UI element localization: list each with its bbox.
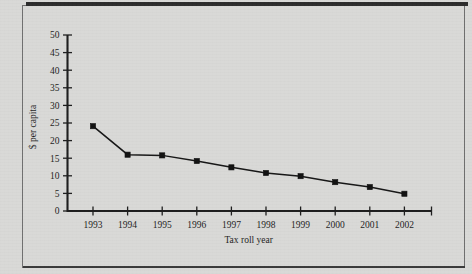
x-tick-label-1999: 1999 <box>291 220 310 230</box>
data-point-1995: 1995: 15.8 <box>160 153 165 158</box>
y-tick-label-15: 15 <box>50 154 60 164</box>
x-tick-label-1993: 1993 <box>84 220 103 230</box>
y-tick-label-40: 40 <box>50 66 60 76</box>
series-line-1 <box>93 126 404 194</box>
y-tick-label-0: 0 <box>55 206 60 216</box>
x-tick-label-1994: 1994 <box>118 220 137 230</box>
y-axis-title: $ per capita <box>28 104 38 149</box>
y-tick-label-5: 5 <box>55 189 60 199</box>
x-axis-title: Tax roll year <box>224 235 273 245</box>
y-tick-label-30: 30 <box>50 101 60 111</box>
x-tick-label-2002: 2002 <box>395 220 414 230</box>
y-tick-label-45: 45 <box>50 48 60 58</box>
y-tick-label-10: 10 <box>50 171 60 181</box>
data-point-1996: 1996: 14.2 <box>194 158 199 163</box>
data-point-2002: 2002: 4.9 <box>402 191 407 196</box>
y-tick-label-20: 20 <box>50 136 60 146</box>
data-point-1999: 1999: 9.9 <box>298 174 303 179</box>
data-point-1994: 1994: 16 <box>125 152 130 157</box>
x-tick-label-2001: 2001 <box>360 220 379 230</box>
data-point-2001: 2001: 6.8 <box>367 184 372 189</box>
x-tick-label-1995: 1995 <box>153 220 172 230</box>
x-tick-label-2000: 2000 <box>326 220 345 230</box>
x-tick-label-1996: 1996 <box>187 220 206 230</box>
line-chart: 05101520253035404550$ per capita19931994… <box>0 0 472 274</box>
y-tick-label-25: 25 <box>50 118 60 128</box>
x-tick-label-1998: 1998 <box>257 220 276 230</box>
data-point-1993: 1993: 24.1 <box>90 124 95 129</box>
chart-svg-root: 05101520253035404550$ per capita19931994… <box>28 30 432 245</box>
data-point-2000: 2000: 8.2 <box>333 180 338 185</box>
y-tick-label-50: 50 <box>50 30 60 40</box>
x-tick-label-1997: 1997 <box>222 220 241 230</box>
figure-container: 05101520253035404550$ per capita19931994… <box>0 0 472 274</box>
data-point-1997: 1997: 12.4 <box>229 165 234 170</box>
y-tick-label-35: 35 <box>50 83 60 93</box>
axis-lines <box>68 35 433 211</box>
data-point-1998: 1998: 10.8 <box>263 170 268 175</box>
